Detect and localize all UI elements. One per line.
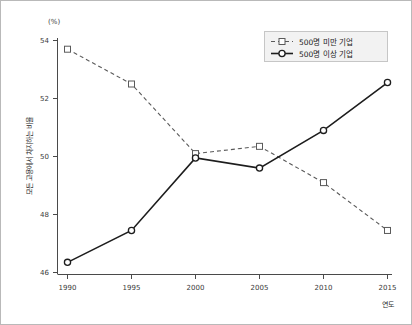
data-point-under-500-2010	[321, 180, 327, 186]
y-tick-label-48: 48	[40, 211, 49, 219]
x-tick-label-2015: 2015	[379, 284, 397, 292]
data-point-over-500-1990	[64, 259, 70, 265]
data-point-over-500-2000	[192, 155, 198, 161]
legend-square-marker-icon	[279, 39, 285, 45]
legend-circle-marker-icon	[279, 50, 285, 56]
data-point-under-500-1990	[65, 46, 71, 52]
x-tick-label-2010: 2010	[315, 284, 333, 292]
y-axis-title: 모든 고용에서 차지하는 비율	[25, 116, 34, 196]
chart-legend: 500명 미만 기업 500명 이상 기업	[265, 32, 388, 62]
y-tick-label-46: 46	[40, 269, 49, 277]
chart-figure: (%) 54 52 50 48 46 1990 1995	[0, 0, 412, 325]
data-point-over-500-1995	[128, 227, 134, 233]
data-point-under-500-2015	[385, 227, 391, 233]
x-axis-title: 연도	[382, 301, 395, 309]
data-point-under-500-2005	[257, 143, 263, 149]
legend-item-over-500[interactable]: 500명 이상 기업	[271, 49, 353, 59]
legend-item-under-500[interactable]: 500명 미만 기업	[271, 37, 353, 47]
line-chart: (%) 54 52 50 48 46 1990 1995	[0, 0, 412, 325]
y-tick-label-50: 50	[40, 153, 49, 161]
data-point-over-500-2005	[256, 165, 262, 171]
legend-label-over-500: 500명 이상 기업	[299, 49, 353, 59]
y-axis-unit-label: (%)	[48, 18, 60, 26]
x-tick-label-1990: 1990	[59, 284, 77, 292]
data-point-over-500-2015	[384, 79, 390, 85]
x-tick-label-1995: 1995	[123, 284, 141, 292]
x-tick-label-2005: 2005	[251, 284, 269, 292]
legend-label-under-500: 500명 미만 기업	[299, 37, 353, 47]
data-point-under-500-1995	[129, 81, 135, 87]
y-tick-label-54: 54	[40, 37, 49, 45]
y-tick-label-52: 52	[40, 95, 49, 103]
x-tick-label-2000: 2000	[187, 284, 205, 292]
data-point-over-500-2010	[320, 127, 326, 133]
